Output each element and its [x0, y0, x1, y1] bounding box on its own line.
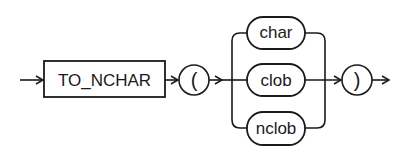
choice-label: nclob	[256, 119, 297, 138]
choice-nclob: nclob	[247, 112, 305, 145]
choice-label: char	[259, 23, 292, 42]
choice-clob: clob	[247, 64, 305, 96]
close-paren-node: )	[342, 65, 372, 95]
open-paren-label: (	[191, 69, 198, 91]
keyword-label: TO_NCHAR	[58, 71, 151, 90]
keyword-box: TO_NCHAR	[44, 61, 165, 97]
choice-label: clob	[260, 71, 291, 90]
syntax-diagram: TO_NCHAR ( char clob nclob )	[0, 0, 410, 162]
choice-char: char	[247, 17, 305, 49]
close-paren-label: )	[354, 69, 361, 91]
open-paren-node: (	[179, 65, 209, 95]
